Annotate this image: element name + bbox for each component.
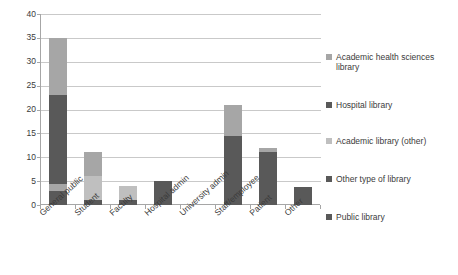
legend-swatch-icon [326,176,332,182]
legend-item[interactable]: Hospital library [326,100,392,110]
y-axis-tick-label: 30 [6,57,36,66]
legend-label: Academic health sciences library [336,52,454,72]
legend-label: Public library [336,212,385,222]
stacked-bar-chart: 0510152025303540 General publicStudentFa… [0,0,458,275]
y-axis-tick-label: 20 [6,105,36,114]
legend-swatch-icon [326,54,332,60]
bar-slot [285,14,320,205]
legend-swatch-icon [326,138,332,144]
legend-item[interactable]: Academic health sciences library [326,52,454,72]
bar-slot [145,14,180,205]
y-axis-tick-label: 10 [6,153,36,162]
y-axis-tick-label: 15 [6,129,36,138]
legend-label: Other type of library [336,174,411,184]
legend-swatch-icon [326,102,332,108]
y-axis-tick-label: 40 [6,10,36,19]
bar-slot [40,14,75,205]
bar-segment [84,152,102,176]
bar-slot [110,14,145,205]
bar-segment [49,38,67,95]
y-axis-tick-label: 25 [6,81,36,90]
plot-wrapper: 0510152025303540 General publicStudentFa… [0,0,458,275]
legend-item[interactable]: Public library [326,212,385,222]
legend-label: Hospital library [336,100,392,110]
legend-item[interactable]: Academic library (other) [326,136,426,146]
bar-segment [224,105,242,136]
x-axis-labels: General publicStudentFacultyHospital adm… [0,205,458,275]
y-axis-tick-label: 35 [6,33,36,42]
y-axis-tick-label: 5 [6,177,36,186]
legend-label: Academic library (other) [336,136,426,146]
legend-item[interactable]: Other type of library [326,174,411,184]
bar-segment [49,95,67,183]
legend-swatch-icon [326,214,332,220]
bar-stack[interactable] [49,38,67,205]
